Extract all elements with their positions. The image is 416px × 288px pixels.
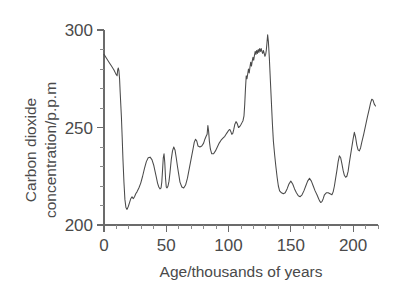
x-tick-label-0: 0 — [99, 236, 108, 255]
x-tick-label-200: 200 — [339, 236, 367, 255]
y-tick-label-300: 300 — [65, 21, 93, 40]
x-axis-title: Age/thousands of years — [160, 263, 323, 280]
y-axis-title-line1: Carbon dioxide — [22, 98, 39, 202]
y-tick-label-250: 250 — [65, 119, 93, 138]
y-axis-title-line2: concentration/p.p.m — [42, 82, 59, 218]
y-tick-label-200: 200 — [65, 216, 93, 235]
x-tick-label-50: 50 — [157, 236, 176, 255]
x-tick-label-150: 150 — [277, 236, 305, 255]
co2-vs-age-chart: 200250300 050100150200 Carbon dioxide co… — [0, 0, 416, 288]
x-tick-label-100: 100 — [214, 236, 242, 255]
